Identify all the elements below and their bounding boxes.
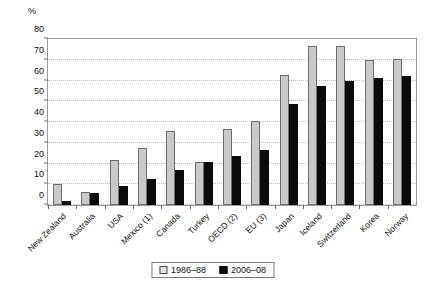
plot-area: 01020304050607080 — [47, 38, 417, 206]
legend-label: 1986–88 — [171, 265, 206, 275]
bar — [393, 59, 402, 205]
y-tick-label: 40 — [34, 107, 44, 117]
x-tick-mark — [303, 205, 304, 209]
x-tick-mark — [359, 205, 360, 209]
x-axis-label: Korea — [358, 211, 381, 234]
bar — [317, 86, 326, 205]
x-tick-mark — [48, 205, 49, 209]
bar — [232, 156, 241, 205]
bar — [175, 170, 184, 205]
bar — [119, 186, 128, 205]
bar-group — [303, 39, 331, 205]
x-tick-mark — [275, 205, 276, 209]
bar — [402, 76, 411, 205]
bar — [53, 184, 62, 205]
bar-group — [48, 39, 76, 205]
bar-group — [331, 39, 359, 205]
bar — [374, 78, 383, 205]
y-tick-label: 0 — [39, 190, 44, 200]
bar — [345, 81, 354, 206]
y-tick-label: 60 — [34, 66, 44, 76]
x-tick-mark — [218, 205, 219, 209]
x-tick-mark — [76, 205, 77, 209]
x-label-cell: Mexico (1) — [132, 210, 160, 262]
legend-swatch-icon — [219, 266, 227, 274]
bar — [260, 150, 269, 205]
x-tick-mark — [246, 205, 247, 209]
y-tick-label: 50 — [34, 86, 44, 96]
bar — [147, 179, 156, 205]
y-tick-label: 80 — [34, 24, 44, 34]
x-label-cell: Australia — [75, 210, 103, 262]
bar — [138, 148, 147, 205]
y-tick-label: 10 — [34, 169, 44, 179]
bar — [223, 129, 232, 205]
bar-groups — [48, 39, 416, 205]
bar-group — [105, 39, 133, 205]
bar-group — [133, 39, 161, 205]
bar — [280, 75, 289, 205]
legend-label: 2006–08 — [231, 265, 266, 275]
x-tick-mark — [331, 205, 332, 209]
bar-group — [218, 39, 246, 205]
x-tick-mark — [133, 205, 134, 209]
bar-group — [388, 39, 416, 205]
x-label-cell: Japan — [275, 210, 303, 262]
y-tick-label: 20 — [34, 149, 44, 159]
bar — [289, 104, 298, 205]
bar — [365, 60, 374, 205]
x-tick-mark — [190, 205, 191, 209]
bar-group — [161, 39, 189, 205]
x-tick-mark — [388, 205, 389, 209]
chart-legend: 1986–882006–08 — [151, 262, 274, 278]
x-axis-label: EU (3) — [243, 211, 267, 235]
bar-chart: % 01020304050607080 New ZealandAustralia… — [0, 0, 425, 288]
x-axis-label: Japan — [273, 211, 296, 234]
bar — [62, 201, 71, 205]
bar-group — [359, 39, 387, 205]
bar-group — [275, 39, 303, 205]
bar — [90, 193, 99, 205]
x-label-cell: Korea — [360, 210, 388, 262]
x-axis-label: USA — [106, 211, 125, 230]
bar-group — [76, 39, 104, 205]
bar — [204, 162, 213, 205]
legend-item: 1986–88 — [159, 265, 206, 275]
bar — [81, 192, 90, 205]
x-label-cell: Norway — [389, 210, 417, 262]
y-tick-label: 30 — [34, 128, 44, 138]
bar — [110, 160, 119, 205]
x-tick-mark — [105, 205, 106, 209]
x-label-cell: Canada — [161, 210, 189, 262]
bar — [336, 46, 345, 205]
bar-group — [246, 39, 274, 205]
x-label-cell: OECD (2) — [218, 210, 246, 262]
y-tick-label: 70 — [34, 45, 44, 55]
legend-swatch-icon — [159, 266, 167, 274]
x-label-cell: Switzerland — [332, 210, 360, 262]
x-axis-labels: New ZealandAustraliaUSAMexico (1)CanadaT… — [47, 210, 417, 262]
bar — [195, 162, 204, 205]
y-axis-unit-label: % — [28, 6, 36, 16]
bar — [308, 46, 317, 205]
x-tick-mark — [161, 205, 162, 209]
x-axis-label: New Zealand — [26, 211, 68, 253]
bar — [251, 121, 260, 205]
bar — [166, 131, 175, 205]
x-label-cell: EU (3) — [246, 210, 274, 262]
legend-item: 2006–08 — [219, 265, 266, 275]
bar-group — [190, 39, 218, 205]
x-axis-label: Turkey — [185, 211, 210, 236]
